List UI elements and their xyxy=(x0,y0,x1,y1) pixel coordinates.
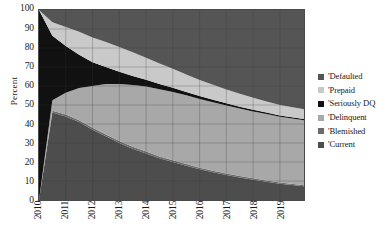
legend-item-label: 'Current xyxy=(328,140,355,149)
legend-item-label: 'Blemished xyxy=(328,127,365,136)
y-axis-tick-labels: 0102030405060708090100 xyxy=(8,0,34,251)
x-axis-tick-label: 2012 xyxy=(87,190,97,230)
x-axis-tick-label: 2011 xyxy=(60,190,70,230)
y-axis-tick-label: 50 xyxy=(10,100,34,110)
legend-item-label: 'Delinquent xyxy=(328,113,367,122)
legend-item: 'Blemished xyxy=(318,124,391,138)
legend-swatch-icon xyxy=(318,128,324,134)
x-axis-tick-labels: 2010201120122013201420152016201720182019 xyxy=(38,201,305,251)
x-axis-tick-label: 2017 xyxy=(222,190,232,230)
x-axis-tick-label: 2019 xyxy=(276,190,286,230)
x-axis-tick-label: 2018 xyxy=(249,190,259,230)
legend-item: 'Delinquent xyxy=(318,111,391,125)
y-axis-tick-label: 80 xyxy=(10,43,34,53)
y-axis-tick-label: 70 xyxy=(10,62,34,72)
legend-item: 'Current xyxy=(318,138,391,152)
y-axis-tick-label: 60 xyxy=(10,81,34,91)
legend-swatch-icon xyxy=(318,87,324,93)
stacked-area-chart: Percent 0102030405060708090100 201020112… xyxy=(0,0,391,251)
chart-legend: 'Defaulted'Prepaid'Seriously DQ'Delinque… xyxy=(318,70,391,152)
legend-item-label: 'Prepaid xyxy=(328,86,355,95)
x-axis-tick-label: 2015 xyxy=(168,190,178,230)
legend-item-label: 'Defaulted xyxy=(328,72,362,81)
x-axis-tick-label: 2013 xyxy=(114,190,124,230)
legend-swatch-icon xyxy=(318,74,324,80)
legend-swatch-icon xyxy=(318,101,324,107)
legend-item: 'Seriously DQ xyxy=(318,97,391,111)
x-axis-tick-label: 2014 xyxy=(141,190,151,230)
legend-swatch-icon xyxy=(318,115,324,121)
x-axis-tick-label: 2010 xyxy=(33,190,43,230)
x-axis-tick-label: 2016 xyxy=(195,190,205,230)
plot-area xyxy=(38,9,305,201)
y-axis-tick-label: 10 xyxy=(10,177,34,187)
legend-item-label: 'Seriously DQ xyxy=(328,99,375,108)
y-axis-tick-label: 0 xyxy=(10,196,34,206)
legend-item: 'Defaulted xyxy=(318,70,391,84)
y-axis-tick-label: 30 xyxy=(10,139,34,149)
y-axis-tick-label: 90 xyxy=(10,24,34,34)
y-axis-tick-label: 100 xyxy=(10,4,34,14)
plot-svg xyxy=(39,10,304,200)
legend-item: 'Prepaid xyxy=(318,84,391,98)
y-axis-tick-label: 20 xyxy=(10,158,34,168)
legend-swatch-icon xyxy=(318,142,324,148)
y-axis-tick-label: 40 xyxy=(10,120,34,130)
